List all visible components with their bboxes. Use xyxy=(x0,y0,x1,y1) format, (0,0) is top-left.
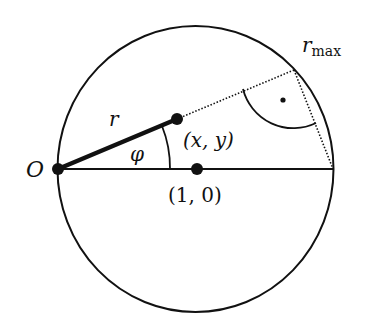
xy-point xyxy=(171,113,183,125)
label-center: (1, 0) xyxy=(168,183,222,207)
polar-circle-diagram: O r φ (x, y) (1, 0) rmax xyxy=(0,0,368,320)
label-rmax-sub: max xyxy=(312,43,342,59)
label-xy: (x, y) xyxy=(183,128,234,152)
dotted-chord xyxy=(294,70,333,169)
label-phi: φ xyxy=(130,142,144,166)
dotted-extension-to-rmax xyxy=(177,70,294,119)
label-origin: O xyxy=(26,157,44,182)
label-r: r xyxy=(109,107,120,131)
label-rmax: rmax xyxy=(302,33,341,59)
right-angle-dot xyxy=(280,97,285,102)
center-point xyxy=(191,163,203,175)
right-angle-arc xyxy=(243,89,316,128)
angle-phi-arc xyxy=(162,126,170,169)
origin-point xyxy=(52,163,64,175)
